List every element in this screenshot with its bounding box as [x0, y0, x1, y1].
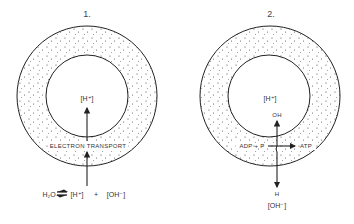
membrane-label: ELECTRON TRANSPORT: [50, 143, 127, 149]
equation-product-1: [H⁺]: [71, 191, 84, 198]
diagram-1: [17, 26, 157, 186]
equation-plus: +: [94, 191, 98, 198]
diagram-2: [200, 26, 340, 187]
adp-p-label: ADP + P: [239, 143, 264, 149]
diagram-1-inner-label: [H⁺]: [81, 95, 94, 102]
oh-label: OH: [272, 112, 282, 118]
h-label: H: [275, 191, 280, 197]
equation-reactant: H₂O: [42, 191, 55, 198]
equation-product-2: [OH⁻]: [107, 191, 125, 198]
atp-label: ATP: [300, 143, 312, 149]
diagram-1-number: 1.: [83, 10, 91, 19]
diagram-2-number: 2.: [267, 10, 275, 19]
diagram-2-inner-label: [H⁺]: [264, 95, 277, 102]
equilibrium-arrow-icon: [56, 190, 68, 198]
oh-ion-label: [OH⁻]: [268, 202, 286, 209]
